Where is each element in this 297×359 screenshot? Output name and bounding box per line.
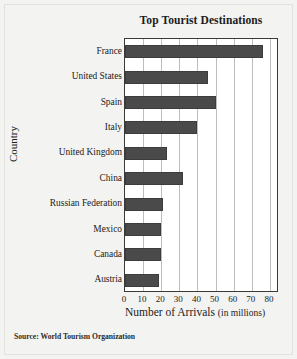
- gridline-70: [252, 39, 253, 291]
- y-tick-label-italy: Italy: [14, 122, 122, 132]
- bar-canada: [125, 248, 161, 261]
- x-tick-label-40: 40: [192, 294, 201, 304]
- plot-area: [124, 38, 278, 292]
- bar-band: [125, 191, 163, 216]
- x-axis-title: Number of Arrivals (in millions): [100, 306, 290, 318]
- bar-band: [125, 141, 167, 166]
- y-tick-label-russian-federation: Russian Federation: [14, 198, 122, 208]
- bar-band: [125, 115, 197, 140]
- gridline-60: [234, 39, 235, 291]
- bar-band: [125, 90, 216, 115]
- y-tick-label-united-states: United States: [14, 71, 122, 81]
- bar-mexico: [125, 223, 161, 236]
- bar-austria: [125, 274, 159, 287]
- bar-france: [125, 45, 263, 58]
- x-tick-label-0: 0: [122, 294, 127, 304]
- y-tick-label-canada: Canada: [14, 249, 122, 259]
- x-axis-unit-text: (in millions): [218, 308, 265, 318]
- bar-band: [125, 242, 161, 267]
- y-tick-label-austria: Austria: [14, 274, 122, 284]
- y-tick-label-united-kingdom: United Kingdom: [14, 147, 122, 157]
- x-tick-label-20: 20: [156, 294, 165, 304]
- bar-italy: [125, 121, 197, 134]
- bar-united-kingdom: [125, 147, 167, 160]
- y-tick-label-france: France: [14, 46, 122, 56]
- bar-united-states: [125, 71, 208, 84]
- bar-band: [125, 39, 263, 64]
- bar-band: [125, 166, 183, 191]
- bar-band: [125, 217, 161, 242]
- bar-band: [125, 268, 159, 293]
- x-tick-label-10: 10: [138, 294, 147, 304]
- chart-figure: Top Tourist Destinations Country FranceU…: [0, 0, 297, 359]
- bar-spain: [125, 96, 216, 109]
- gridline-50: [216, 39, 217, 291]
- x-tick-label-60: 60: [228, 294, 237, 304]
- x-axis-title-text: Number of Arrivals: [125, 306, 215, 318]
- y-tick-label-china: China: [14, 173, 122, 183]
- x-tick-label-30: 30: [174, 294, 183, 304]
- y-tick-label-spain: Spain: [14, 97, 122, 107]
- y-axis-tick-labels: FranceUnited StatesSpainItalyUnited King…: [10, 38, 122, 292]
- y-tick-label-mexico: Mexico: [14, 224, 122, 234]
- x-tick-label-50: 50: [210, 294, 219, 304]
- gridline-80: [270, 39, 271, 291]
- x-tick-label-80: 80: [264, 294, 273, 304]
- bar-russian-federation: [125, 198, 163, 211]
- chart-title: Top Tourist Destinations: [124, 14, 278, 26]
- bar-china: [125, 172, 183, 185]
- bar-band: [125, 64, 208, 89]
- x-tick-label-70: 70: [246, 294, 255, 304]
- source-note: Source: World Tourism Organization: [14, 332, 135, 341]
- x-axis-tick-labels: 01020304050607080: [124, 294, 278, 306]
